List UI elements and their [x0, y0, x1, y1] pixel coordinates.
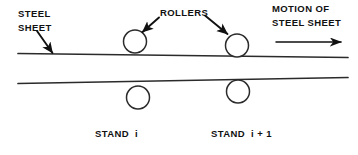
steel-sheet-label-line2: SHEET — [18, 22, 52, 33]
lower-roller-stand-i — [127, 86, 150, 109]
upper-roller-stand-i-plus-1 — [226, 34, 249, 57]
lower-roller-stand-i-plus-1 — [227, 80, 250, 103]
stand-i-label: STAND i — [95, 128, 138, 139]
upper-roller-stand-i — [124, 30, 147, 53]
steel-sheet-pointer-arrow — [37, 31, 53, 53]
sheet-top-edge — [18, 54, 348, 58]
sheet-bottom-edge — [18, 78, 348, 84]
rolling-mill-diagram: STEEL SHEET ROLLERS MOTION OF STEEL SHEE… — [0, 0, 358, 155]
motion-label-line2: STEEL SHEET — [272, 17, 341, 28]
stand-i-plus-1-label: STAND i + 1 — [211, 128, 272, 139]
roller-group — [124, 30, 250, 109]
rollers-label: ROLLERS — [160, 7, 208, 18]
rollers-pointer-arrow-left — [143, 18, 160, 33]
steel-sheet-label-line1: STEEL — [18, 8, 51, 19]
diagram-canvas: STEEL SHEET ROLLERS MOTION OF STEEL SHEE… — [0, 0, 358, 155]
rollers-pointer-arrow-right — [205, 16, 228, 35]
steel-sheet-strip — [18, 54, 348, 84]
label-group: STEEL SHEET ROLLERS MOTION OF STEEL SHEE… — [18, 3, 341, 139]
motion-label-line1: MOTION OF — [272, 3, 329, 14]
